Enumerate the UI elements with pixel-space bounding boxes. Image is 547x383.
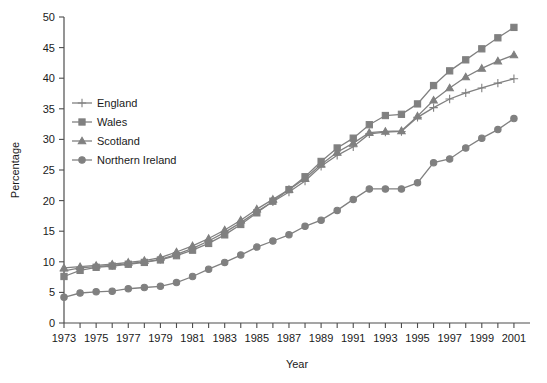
x-tick-label: 1993 bbox=[373, 332, 397, 344]
data-point bbox=[125, 286, 131, 292]
legend-entry-england[interactable]: England bbox=[72, 97, 137, 109]
y-tick-label: 30 bbox=[43, 133, 55, 145]
legend-entry-wales[interactable]: Wales bbox=[72, 116, 128, 128]
legend-label: England bbox=[97, 97, 137, 109]
data-point bbox=[429, 103, 437, 111]
data-point bbox=[221, 259, 227, 265]
data-point bbox=[510, 75, 518, 83]
y-tick-label: 0 bbox=[49, 317, 55, 329]
data-point bbox=[366, 186, 372, 192]
x-tick-label: 1985 bbox=[245, 332, 269, 344]
legend-entry-scotland[interactable]: Scotland bbox=[72, 135, 140, 147]
data-point bbox=[495, 126, 501, 132]
data-point bbox=[463, 145, 469, 151]
data-point bbox=[446, 156, 452, 162]
data-point bbox=[173, 279, 179, 285]
data-point bbox=[141, 284, 147, 290]
data-point bbox=[189, 273, 195, 279]
data-point bbox=[382, 112, 388, 118]
data-point bbox=[205, 266, 211, 272]
data-point bbox=[494, 79, 502, 87]
data-point bbox=[77, 290, 83, 296]
data-point bbox=[350, 196, 356, 202]
data-point bbox=[511, 24, 517, 30]
legend-label: Northern Ireland bbox=[97, 154, 177, 166]
data-point bbox=[270, 238, 276, 244]
x-tick-label: 1977 bbox=[116, 332, 140, 344]
data-point bbox=[61, 273, 67, 279]
data-point bbox=[302, 223, 308, 229]
data-point bbox=[286, 232, 292, 238]
legend-label: Scotland bbox=[97, 135, 140, 147]
data-point bbox=[414, 101, 420, 107]
series-line-wales bbox=[64, 27, 514, 276]
data-point bbox=[382, 186, 388, 192]
data-point bbox=[478, 65, 485, 72]
x-tick-label: 1983 bbox=[212, 332, 236, 344]
y-tick-label: 50 bbox=[43, 11, 55, 23]
data-point bbox=[205, 235, 212, 242]
y-tick-label: 35 bbox=[43, 103, 55, 115]
data-point bbox=[254, 244, 260, 250]
data-point bbox=[479, 135, 485, 141]
legend-label: Wales bbox=[97, 116, 128, 128]
data-point bbox=[237, 216, 244, 223]
series-wales bbox=[61, 24, 517, 279]
data-point bbox=[463, 57, 469, 63]
data-point bbox=[318, 217, 324, 223]
data-point bbox=[334, 207, 340, 213]
data-point bbox=[366, 122, 372, 128]
data-point bbox=[430, 159, 436, 165]
x-tick-label: 1981 bbox=[180, 332, 204, 344]
x-tick-label: 1979 bbox=[148, 332, 172, 344]
legend-entry-northern-ireland[interactable]: Northern Ireland bbox=[72, 154, 177, 166]
y-tick-label: 45 bbox=[43, 42, 55, 54]
x-tick-label: 1991 bbox=[341, 332, 365, 344]
data-point bbox=[478, 84, 486, 92]
data-point bbox=[446, 84, 453, 91]
data-point bbox=[221, 226, 228, 233]
x-tick-label: 2001 bbox=[502, 332, 526, 344]
data-point bbox=[462, 73, 469, 80]
y-tick-label: 10 bbox=[43, 256, 55, 268]
x-tick-label: 1987 bbox=[277, 332, 301, 344]
data-point bbox=[414, 180, 420, 186]
data-point bbox=[511, 115, 517, 121]
data-point bbox=[238, 252, 244, 258]
data-point bbox=[447, 68, 453, 74]
y-tick-label: 20 bbox=[43, 195, 55, 207]
data-point bbox=[157, 283, 163, 289]
y-axis-title: Percentage bbox=[9, 142, 21, 198]
y-tick-label: 5 bbox=[49, 286, 55, 298]
legend-swatch-marker bbox=[79, 157, 85, 163]
x-tick-label: 1999 bbox=[470, 332, 494, 344]
legend-swatch-marker bbox=[78, 99, 86, 107]
data-point bbox=[61, 294, 67, 300]
chart-canvas: 0510152025303540455019731975197719791981… bbox=[0, 0, 547, 383]
y-tick-label: 25 bbox=[43, 164, 55, 176]
data-point bbox=[398, 186, 404, 192]
data-point bbox=[495, 35, 501, 41]
data-point bbox=[189, 242, 196, 249]
data-point bbox=[479, 46, 485, 52]
data-point bbox=[253, 205, 260, 212]
x-tick-label: 1995 bbox=[405, 332, 429, 344]
data-point bbox=[462, 89, 470, 97]
x-tick-label: 1997 bbox=[437, 332, 461, 344]
data-point bbox=[398, 111, 404, 117]
y-tick-label: 40 bbox=[43, 72, 55, 84]
x-tick-label: 1975 bbox=[84, 332, 108, 344]
x-tick-label: 1989 bbox=[309, 332, 333, 344]
data-point bbox=[430, 82, 436, 88]
line-chart: 0510152025303540455019731975197719791981… bbox=[0, 0, 547, 383]
x-axis-title: Year bbox=[286, 358, 309, 370]
data-point bbox=[109, 288, 115, 294]
data-point bbox=[445, 95, 453, 103]
x-tick-label: 1973 bbox=[52, 332, 76, 344]
y-tick-label: 15 bbox=[43, 225, 55, 237]
legend-swatch-marker bbox=[79, 119, 85, 125]
data-point bbox=[510, 51, 517, 58]
data-point bbox=[93, 289, 99, 295]
